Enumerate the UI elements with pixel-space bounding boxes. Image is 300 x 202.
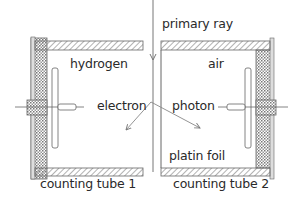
diagram-canvas	[0, 0, 300, 202]
tube1-electrode-plate	[52, 68, 58, 148]
tube1-bottom-plate	[35, 168, 143, 176]
label-counting-tube-1: counting tube 1	[40, 178, 136, 191]
tube2-bushing	[256, 100, 276, 115]
label-counting-tube-2: counting tube 2	[173, 178, 269, 191]
label-primary-ray: primary ray	[162, 18, 233, 31]
tube2-bottom-plate	[161, 168, 270, 176]
compton-experiment-diagram: primary ray hydrogen air electron photon…	[0, 0, 300, 202]
label-electron: electron	[97, 100, 146, 113]
tube2-electrode-plate	[245, 68, 251, 148]
tube1-bushing	[27, 100, 47, 115]
label-air: air	[208, 58, 224, 71]
label-hydrogen: hydrogen	[70, 58, 128, 71]
tube1-top-plate	[35, 41, 143, 50]
label-platin-foil: platin foil	[169, 150, 225, 163]
tube2-top-plate	[161, 41, 270, 50]
label-photon: photon	[172, 100, 215, 113]
